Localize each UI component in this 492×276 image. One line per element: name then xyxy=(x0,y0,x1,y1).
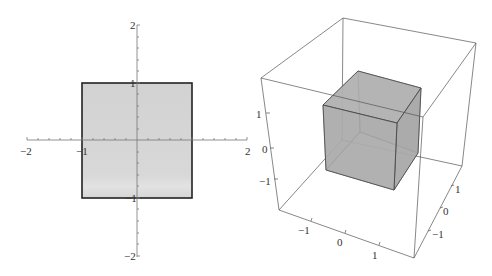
y-tick-label: 1 xyxy=(130,77,136,89)
y-tick-label: −1 xyxy=(125,192,137,204)
x-axis-ticks-3d xyxy=(311,218,380,245)
y-tick-label-3d: 0 xyxy=(443,205,449,217)
x-tick-label: −1 xyxy=(76,145,88,157)
z-tick-label: 1 xyxy=(256,108,262,120)
z-tick-label: −1 xyxy=(259,175,271,187)
y-tick-label-3d: −1 xyxy=(432,228,444,240)
plot-3d: 1 0 −1 −1 0 1 1 0 −1 xyxy=(256,18,476,261)
plot-2d: −2 −1 2 2 1 −1 −2 xyxy=(20,19,251,262)
x-tick-label-3d: −1 xyxy=(298,224,310,236)
z-axis-ticks xyxy=(266,113,278,179)
cube xyxy=(323,71,421,190)
x-tick-label-3d: 0 xyxy=(337,236,343,248)
y-tick-label: 2 xyxy=(130,19,136,31)
y-tick-label-3d: 1 xyxy=(455,183,461,195)
x-tick-label-3d: 1 xyxy=(372,249,378,261)
figure: −2 −1 2 2 1 −1 −2 xyxy=(0,0,492,276)
x-tick-label: 2 xyxy=(245,145,251,157)
z-tick-label: 0 xyxy=(262,143,268,155)
y-tick-label: −2 xyxy=(124,250,136,262)
x-tick-label: −2 xyxy=(20,145,32,157)
